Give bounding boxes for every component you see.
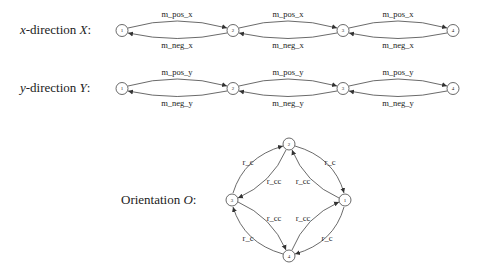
- state-diagram: x-direction X: m_pos_x m_neg_x m_pos_x m…: [0, 0, 479, 271]
- x-direction-row: x-direction X: m_pos_x m_neg_x m_pos_x m…: [19, 9, 459, 50]
- y-direction-row: y-direction Y: m_pos_y m_neg_y m_pos_y m…: [18, 67, 459, 108]
- node: 2: [227, 83, 239, 95]
- edge-label-pos: m_pos_x: [382, 9, 414, 19]
- orientation-diagram: Orientation O: r_c r_cc r_c r_cc r_cc r_…: [121, 138, 351, 262]
- x-direction-label: x-direction X:: [19, 22, 91, 37]
- node: 3: [337, 83, 349, 95]
- node: 4: [447, 83, 459, 95]
- edge-label-pos: m_pos_y: [382, 67, 414, 77]
- edge-label-neg: m_neg_y: [382, 98, 414, 108]
- node: 2: [283, 138, 295, 150]
- edge-label: r_cc: [296, 176, 311, 186]
- node: 1: [116, 83, 128, 95]
- edge-label-pos: m_pos_y: [272, 67, 304, 77]
- node: 3: [337, 25, 349, 37]
- node: 1: [116, 25, 128, 37]
- node: 1: [339, 194, 351, 206]
- edge-label: r_c: [322, 233, 333, 243]
- node: 4: [283, 250, 295, 262]
- edge-label-pos: m_pos_x: [161, 9, 193, 19]
- edge-label: r_cc: [267, 176, 282, 186]
- edge-label: r_cc: [267, 213, 282, 223]
- edge-label-pos: m_pos_y: [161, 67, 193, 77]
- y-direction-label: y-direction Y:: [18, 80, 90, 95]
- edge-label-neg: m_neg_x: [272, 40, 304, 50]
- edge-label: r_c: [243, 157, 254, 167]
- edge-label: r_cc: [296, 213, 311, 223]
- edge-label: r_c: [325, 157, 336, 167]
- edge-label-neg: m_neg_x: [382, 40, 414, 50]
- node: 2: [227, 25, 239, 37]
- node: 4: [447, 25, 459, 37]
- edge-label-neg: m_neg_y: [161, 98, 193, 108]
- edge-label: r_c: [243, 233, 254, 243]
- orientation-label: Orientation O:: [121, 192, 196, 207]
- edge-label-neg: m_neg_x: [161, 40, 193, 50]
- edge-label-neg: m_neg_y: [272, 98, 304, 108]
- node: 3: [226, 194, 238, 206]
- edge-label-pos: m_pos_x: [272, 9, 304, 19]
